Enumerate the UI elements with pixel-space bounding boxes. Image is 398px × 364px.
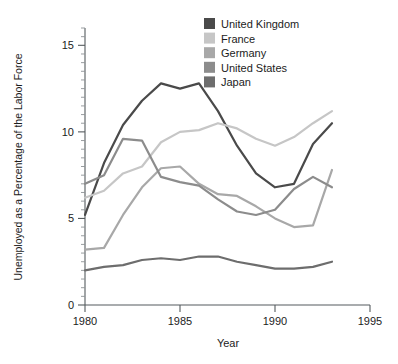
y-axis: 051015 [62,28,85,311]
legend-label: France [221,33,255,45]
legend-swatch [204,47,215,58]
series-line-united-states [85,139,332,215]
legend-label: Japan [221,76,251,88]
series-line-france [85,111,332,198]
unemployment-line-chart: 051015 1980198519901995 United KingdomFr… [0,0,398,364]
chart-legend: United KingdomFranceGermanyUnited States… [204,18,299,88]
y-tick-label: 15 [62,39,74,51]
legend-swatch [204,33,215,44]
x-axis: 1980198519901995 [73,305,382,327]
x-tick-label: 1995 [358,315,382,327]
legend-swatch [204,62,215,73]
x-tick-label: 1985 [168,315,192,327]
x-axis-title: Year [217,337,240,349]
y-tick-label: 0 [68,299,74,311]
y-tick-label: 5 [68,212,74,224]
series-line-germany [85,167,332,250]
x-tick-label: 1990 [263,315,287,327]
legend-label: Germany [221,47,267,59]
legend-swatch [204,18,215,29]
legend-label: United Kingdom [221,18,299,30]
legend-label: United States [221,62,288,74]
legend-swatch [204,76,215,87]
y-tick-label: 10 [62,126,74,138]
series-line-japan [85,257,332,271]
series-line-united-kingdom [85,83,332,215]
y-axis-title: Unemployed as a Percentage of the Labor … [12,53,24,280]
x-tick-label: 1980 [73,315,97,327]
data-series-group [85,83,332,270]
chart-canvas: 051015 1980198519901995 United KingdomFr… [0,0,398,364]
